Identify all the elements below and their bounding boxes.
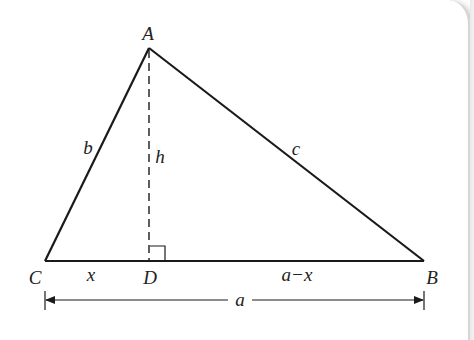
side-c	[149, 48, 424, 261]
vertex-label-d: D	[142, 267, 157, 288]
vertex-label-a: A	[140, 23, 154, 44]
side-b	[45, 48, 149, 261]
vertex-label-b: B	[426, 267, 438, 288]
altitude-label-h: h	[155, 146, 165, 167]
segment-label-x: x	[86, 264, 96, 285]
right-angle-mark	[150, 246, 165, 261]
side-label-c: c	[292, 138, 301, 159]
triangle-diagram: A B C D b c h x a−x a	[0, 0, 474, 340]
vertex-label-c: C	[29, 267, 42, 288]
side-label-b: b	[83, 137, 93, 158]
segment-label-a-minus-x: a−x	[282, 264, 313, 285]
dimension-label-a: a	[235, 289, 245, 310]
